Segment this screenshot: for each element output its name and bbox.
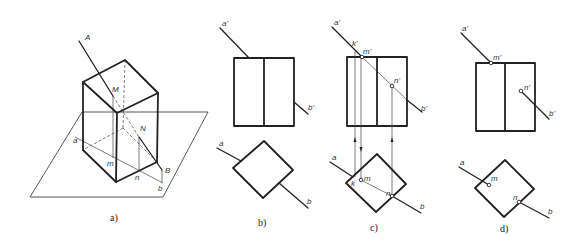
label-a: a bbox=[73, 136, 78, 145]
arrow-up-k bbox=[354, 137, 357, 142]
hidden-edge-right bbox=[123, 128, 157, 162]
label-b-prime: b' bbox=[421, 104, 427, 113]
line-a bbox=[330, 162, 353, 177]
top-view-diamond bbox=[475, 160, 534, 217]
label-m-prime: m' bbox=[363, 47, 372, 56]
label-N: N bbox=[140, 124, 146, 133]
label-a: a bbox=[219, 139, 224, 148]
line-a-prime bbox=[220, 28, 249, 58]
line-a-prime bbox=[461, 33, 491, 63]
panel-b: a' b' a b b) bbox=[217, 19, 314, 229]
caption-c: c) bbox=[370, 222, 378, 234]
label-a: a bbox=[332, 153, 337, 162]
label-k: k bbox=[351, 179, 356, 188]
label-A: A bbox=[84, 33, 90, 42]
line-a bbox=[217, 148, 241, 161]
point-n bbox=[517, 200, 521, 204]
label-b-prime: b' bbox=[549, 109, 555, 118]
line-b-prime-end bbox=[407, 100, 422, 112]
line-b bbox=[279, 183, 308, 208]
ground-plane bbox=[30, 112, 208, 197]
label-m: m bbox=[491, 174, 498, 183]
caption-b: b) bbox=[258, 217, 266, 229]
line-b bbox=[392, 196, 421, 213]
panel-d: a' m' n' b' a m n b d) bbox=[459, 24, 555, 235]
label-n: n bbox=[513, 193, 518, 202]
caption-d: d) bbox=[500, 223, 508, 235]
label-n: n bbox=[135, 173, 140, 182]
label-k-prime: k' bbox=[352, 39, 358, 48]
label-b: b bbox=[548, 207, 553, 216]
label-m-prime: m' bbox=[493, 53, 502, 62]
figure-canvas: A M N B a m n b a) a' b' a b b) bbox=[0, 0, 579, 251]
point-n bbox=[390, 194, 394, 198]
label-n-prime: n' bbox=[394, 76, 400, 85]
label-n-prime: n' bbox=[524, 83, 530, 92]
label-m: m bbox=[107, 159, 114, 168]
label-a-prime: a' bbox=[462, 24, 468, 33]
caption-a: a) bbox=[110, 212, 118, 224]
label-n: n bbox=[386, 189, 391, 198]
point-m bbox=[487, 183, 491, 187]
point-m bbox=[359, 178, 363, 182]
label-m: m bbox=[364, 174, 371, 183]
label-b: b bbox=[307, 197, 312, 206]
label-b: b bbox=[158, 184, 163, 193]
label-a: a bbox=[460, 158, 465, 167]
prism-top-face bbox=[83, 60, 158, 113]
panel-a: A M N B a m n b a) bbox=[30, 33, 208, 224]
prism-edge-front bbox=[116, 113, 117, 182]
point-n-prime bbox=[519, 89, 523, 93]
panel-c: a' k' m' n' b' a k m n b c) bbox=[330, 18, 427, 234]
label-b: b bbox=[420, 202, 425, 211]
label-M: M bbox=[112, 85, 119, 94]
line-inside-thin bbox=[362, 57, 407, 100]
label-a-prime: a' bbox=[334, 18, 340, 27]
line-a bbox=[459, 167, 489, 185]
hidden-edge-vertical bbox=[123, 60, 125, 128]
arrow-up-n bbox=[391, 137, 394, 142]
prism-bottom-edges bbox=[83, 150, 157, 182]
label-B: B bbox=[165, 166, 171, 175]
line-b bbox=[519, 202, 549, 218]
label-a-prime: a' bbox=[222, 19, 228, 28]
prism-edge-right bbox=[157, 93, 158, 162]
projection-ab bbox=[75, 137, 163, 183]
top-view-diamond bbox=[233, 141, 293, 198]
arrow-down-m bbox=[360, 147, 363, 152]
line-b-prime bbox=[294, 102, 308, 114]
label-b-prime: b' bbox=[308, 103, 314, 112]
